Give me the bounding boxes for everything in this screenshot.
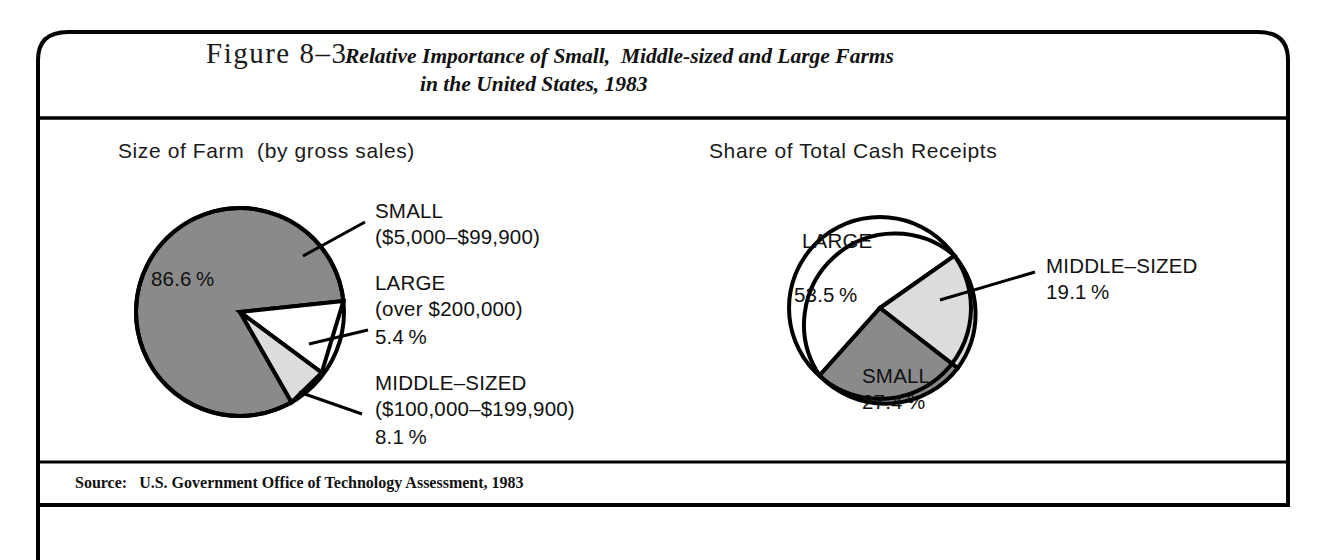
left-callout-middle-percent: 8.1 % — [375, 425, 427, 449]
left-callout-small-range: ($5,000–$99,900) — [375, 225, 540, 249]
right-callout-middle-percent: 19.1 % — [1046, 280, 1109, 304]
leader-line-left-middle — [299, 392, 362, 414]
right-large-percent: 53.5 % — [794, 283, 857, 307]
right-panel-heading: Share of Total Cash Receipts — [709, 139, 997, 164]
figure-title-line2: in the United States, 1983 — [420, 72, 648, 97]
left-small-percent: 86.6 % — [151, 267, 214, 291]
figure-container: Figure 8–3 Relative Importance of Small,… — [0, 0, 1318, 560]
right-large-name: LARGE — [802, 229, 873, 253]
left-callout-large-percent: 5.4 % — [375, 325, 427, 349]
right-small-name: SMALL — [862, 364, 930, 388]
right-callout-middle-name: MIDDLE–SIZED — [1046, 254, 1198, 278]
left-callout-middle-name: MIDDLE–SIZED — [375, 371, 527, 395]
left-callout-large-range: (over $200,000) — [375, 297, 523, 321]
left-callout-small-name: SMALL — [375, 199, 443, 223]
left-callout-middle-range: ($100,000–$199,900) — [375, 397, 575, 421]
figure-title-line1: Relative Importance of Small, Middle-siz… — [345, 44, 894, 69]
left-callout-large-name: LARGE — [375, 271, 446, 295]
figure-number: Figure 8–3 — [206, 36, 347, 70]
source-note: Source: U.S. Government Office of Techno… — [75, 474, 524, 493]
left-panel-heading: Size of Farm (by gross sales) — [118, 139, 415, 164]
right-small-percent: 27.4 % — [862, 390, 925, 414]
